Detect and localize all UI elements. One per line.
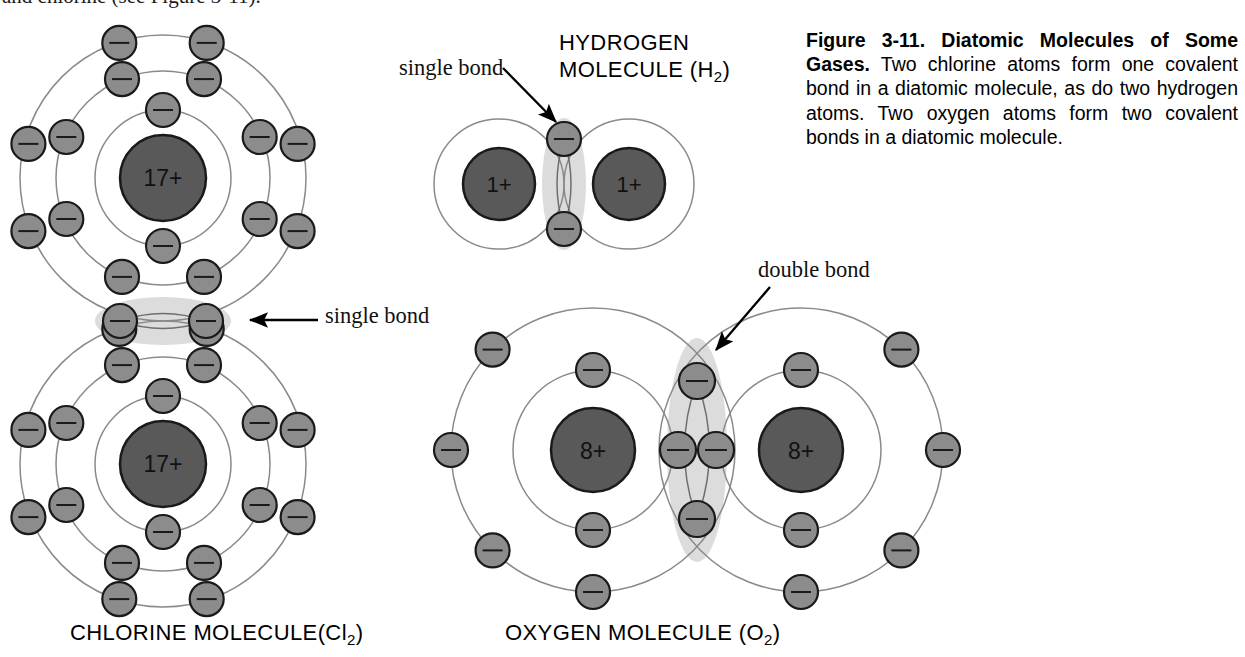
electron — [146, 379, 180, 413]
chlorine-nucleus-label-upper: 17+ — [143, 165, 182, 191]
electron — [11, 413, 45, 447]
chlorine-atom-upper: 17+ — [11, 26, 314, 321]
electron — [11, 500, 45, 534]
electron — [49, 120, 83, 154]
hydrogen-shared-electron-top — [547, 122, 581, 156]
electron — [105, 260, 139, 294]
oxygen-shared-electrons — [660, 363, 734, 537]
electron — [49, 406, 83, 440]
electron — [243, 120, 277, 154]
electron — [102, 26, 136, 60]
electron — [187, 546, 221, 580]
hydrogen-shared-electron-bottom — [547, 212, 581, 246]
chlorine-atom-lower: 17+ — [11, 312, 314, 616]
electron — [576, 575, 610, 609]
electron — [190, 26, 224, 60]
electron — [884, 333, 918, 367]
electron — [187, 260, 221, 294]
electron — [243, 488, 277, 522]
electron — [926, 433, 960, 467]
electron — [187, 62, 221, 96]
electron — [784, 513, 818, 547]
electron — [105, 348, 139, 382]
electron — [49, 202, 83, 236]
chlorine-nucleus-label-lower: 17+ — [143, 451, 182, 477]
electron — [146, 515, 180, 549]
electron — [281, 413, 315, 447]
oxygen-bond-leader-arrow — [716, 287, 770, 350]
electron — [576, 353, 610, 387]
chlorine-shared-electron-left — [103, 304, 137, 338]
chlorine-molecule: 17+ — [11, 26, 318, 616]
electron — [281, 214, 315, 248]
electron — [102, 582, 136, 616]
oxygen-shared-electron-mid-right — [698, 432, 734, 468]
electron — [476, 533, 510, 567]
electron — [243, 406, 277, 440]
oxygen-nucleus-label-left: 8+ — [580, 438, 606, 464]
electron — [146, 93, 180, 127]
hydrogen-nucleus-label-left: 1+ — [486, 172, 511, 197]
oxygen-molecule: 8+ 8+ — [434, 287, 960, 609]
electron — [146, 229, 180, 263]
electron — [281, 127, 315, 161]
electron — [105, 546, 139, 580]
hydrogen-bond-leader-arrow — [503, 68, 556, 122]
electron — [784, 353, 818, 387]
electron — [784, 575, 818, 609]
electron — [281, 500, 315, 534]
oxygen-shared-electron-bottom — [679, 501, 715, 537]
oxygen-shared-electron-top — [679, 363, 715, 399]
electron — [11, 127, 45, 161]
electron — [11, 214, 45, 248]
oxygen-nucleus-label-right: 8+ — [788, 438, 814, 464]
electron — [243, 202, 277, 236]
electron — [884, 533, 918, 567]
hydrogen-nucleus-label-right: 1+ — [616, 172, 641, 197]
electron — [105, 62, 139, 96]
diatomic-molecules-diagram: 17+ — [0, 0, 1245, 657]
electron — [187, 348, 221, 382]
electron — [476, 333, 510, 367]
electron — [49, 488, 83, 522]
hydrogen-molecule: 1+ 1+ — [434, 68, 694, 250]
chlorine-shared-electron-right — [189, 304, 223, 338]
electron — [190, 582, 224, 616]
electron — [576, 513, 610, 547]
oxygen-shared-electron-mid-left — [660, 432, 696, 468]
electron — [434, 433, 468, 467]
